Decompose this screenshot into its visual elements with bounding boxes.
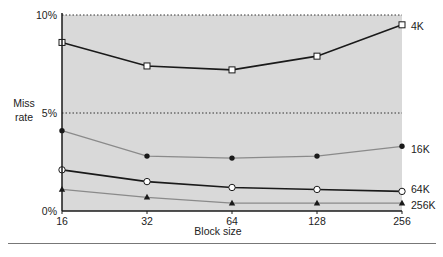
y-tick-label: 5%	[42, 107, 57, 119]
x-tick-label: 32	[141, 215, 153, 227]
caption-divider	[8, 243, 436, 244]
filled-circle-marker-icon	[399, 144, 404, 149]
series-label-64k: 64K	[411, 183, 430, 195]
filled-circle-marker-icon	[229, 155, 234, 160]
square-marker-icon	[144, 63, 150, 69]
series-label-16k: 16K	[411, 143, 430, 155]
x-axis-label: Block size	[194, 225, 241, 237]
square-marker-icon	[229, 67, 235, 73]
series-labels: 4K16K64K256K	[411, 20, 436, 211]
open-circle-marker-icon	[229, 184, 235, 190]
x-tick-label: 256	[393, 215, 411, 227]
x-tick-label: 16	[56, 215, 68, 227]
open-circle-marker-icon	[144, 178, 150, 184]
series-label-256k: 256K	[411, 199, 436, 211]
y-tick-label: 0%	[42, 205, 57, 217]
open-circle-marker-icon	[314, 186, 320, 192]
filled-circle-marker-icon	[314, 153, 319, 158]
series-label-4k: 4K	[411, 20, 424, 32]
filled-circle-marker-icon	[144, 153, 149, 158]
square-marker-icon	[399, 22, 405, 28]
y-tick-label: 10%	[36, 9, 57, 21]
y-axis-label-line2: rate	[15, 111, 33, 123]
miss-rate-chart: 0%5%10% 163264128256 4K16K64K256K Miss r…	[0, 0, 443, 257]
y-tick-labels: 0%5%10%	[36, 9, 57, 217]
square-marker-icon	[314, 53, 320, 59]
y-axis-label-line1: Miss	[13, 97, 35, 109]
x-tick-label: 128	[308, 215, 326, 227]
open-circle-marker-icon	[399, 188, 405, 194]
